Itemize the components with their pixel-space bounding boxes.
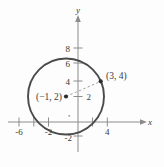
center-point-label: (−1, 2) bbox=[36, 92, 62, 103]
axis-group bbox=[8, 15, 147, 152]
center-point-dot bbox=[64, 94, 68, 98]
radius-dashed-line bbox=[66, 82, 101, 97]
y-tick-label-4: 4 bbox=[66, 77, 71, 87]
x-axis-arrow-icon bbox=[140, 119, 147, 125]
y-axis-label: y bbox=[75, 5, 80, 15]
origin-dot bbox=[69, 115, 71, 117]
x-tick-label-4: 4 bbox=[105, 127, 110, 137]
circle-point-label: (3, 4) bbox=[106, 71, 127, 82]
x-tick-label--6: -6 bbox=[15, 127, 23, 137]
y-tick-label-8: 8 bbox=[66, 44, 71, 54]
x-axis-label: x bbox=[147, 117, 152, 127]
graph-figure: x y -6 -2 4 8 6 4 2 -2 (−1, 2) (3, 4) bbox=[0, 0, 164, 167]
circle-point-dot bbox=[99, 79, 103, 83]
x-tick-label--2: -2 bbox=[45, 127, 53, 137]
y-axis-arrow-icon bbox=[75, 15, 81, 22]
coordinate-plane-svg: x y -6 -2 4 8 6 4 2 -2 (−1, 2) (3, 4) bbox=[0, 0, 164, 167]
y-tick-label-2: 2 bbox=[87, 92, 92, 102]
y-tick-label-6: 6 bbox=[66, 59, 71, 69]
y-tick-label--2: -2 bbox=[65, 133, 73, 143]
